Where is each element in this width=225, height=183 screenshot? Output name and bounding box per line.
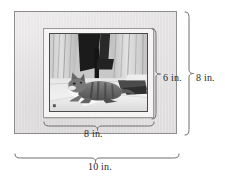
brace-frame-height	[183, 11, 195, 136]
figure-canvas: 6 in. 8 in. 8 in. 10 in.	[0, 0, 225, 183]
label-photo-height: 6 in.	[163, 72, 182, 83]
cat-photograph	[49, 33, 148, 112]
label-photo-width: 8 in.	[84, 128, 103, 139]
label-frame-height: 8 in.	[196, 72, 215, 83]
label-frame-width: 10 in.	[88, 161, 112, 172]
